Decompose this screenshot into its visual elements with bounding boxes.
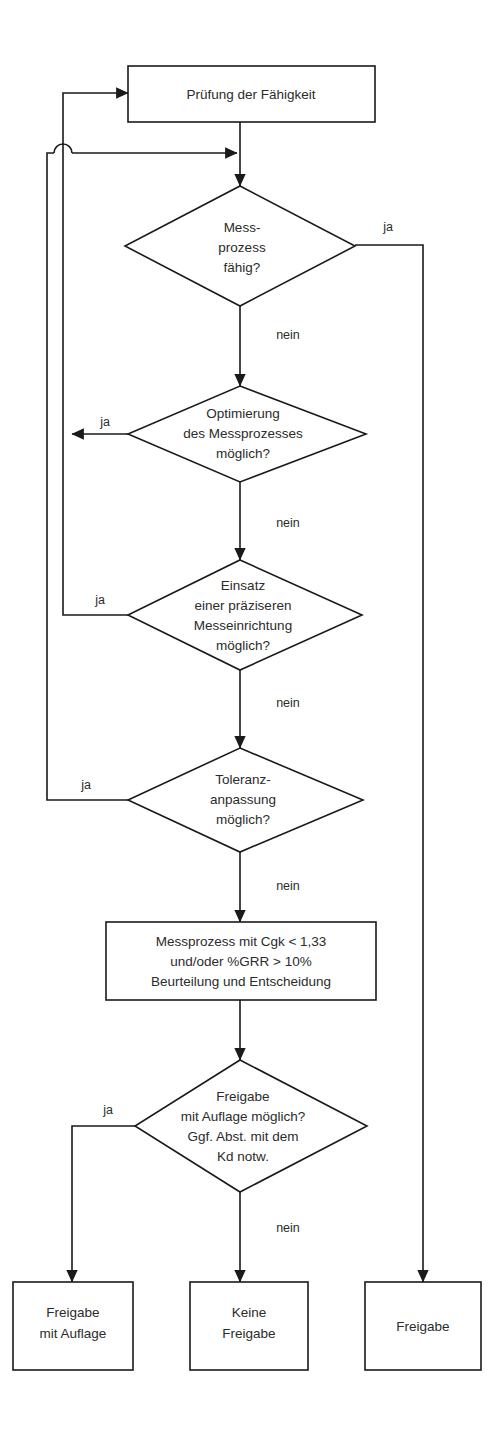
node-decision-conditional-release-line3: Ggf. Abst. mit dem [187,1129,298,1144]
node-decision-conditional-release[interactable]: Freigabe mit Auflage möglich? Ggf. Abst.… [135,1060,367,1192]
node-decision-precise-device[interactable]: Einsatz einer präziseren Messeinrichtung… [128,560,362,670]
node-terminal-release-conditional-line2: mit Auflage [40,1326,107,1341]
node-decision-conditional-release-line1: Freigabe [216,1089,269,1104]
node-decision-tolerance-line3: möglich? [216,812,270,827]
edge-label-precise-yes: ja [94,593,105,607]
node-terminal-no-release[interactable]: Keine Freigabe [190,1282,308,1370]
node-terminal-release-line1: Freigabe [396,1319,449,1334]
edge-tolerance-yes-seg1 [47,153,128,800]
node-terminal-release-conditional[interactable]: Freigabe mit Auflage [13,1282,133,1370]
node-process-evaluation-line2: und/oder %GRR > 10% [170,954,311,969]
node-decision-capable-line1: Mess- [224,220,261,235]
edge-precise-yes [63,93,128,615]
edge-label-conditional-yes: ja [102,1103,113,1117]
node-decision-capable[interactable]: Mess- prozess fähig? [125,186,355,306]
node-decision-capable-line2: prozess [218,240,266,255]
node-decision-tolerance-line2: anpassung [210,792,276,807]
node-terminal-no-release-line2: Freigabe [222,1326,275,1341]
edge-label-capable-yes: ja [382,220,393,234]
flowchart-diagram: Prüfung der Fähigkeit Mess- prozess fähi… [0,0,504,1436]
edge-label-conditional-no: nein [276,1221,300,1235]
node-start-process[interactable]: Prüfung der Fähigkeit [128,66,375,122]
node-decision-optimize[interactable]: Optimierung des Messprozesses möglich? [128,386,366,482]
node-decision-capable-line3: fähig? [224,260,261,275]
node-decision-conditional-release-line4: Kd notw. [217,1149,269,1164]
edge-label-tolerance-yes: ja [80,778,91,792]
edge-label-capable-no: nein [276,328,300,342]
node-decision-optimize-line3: möglich? [216,446,270,461]
node-decision-precise-device-line3: Messeinrichtung [194,618,292,633]
edge-label-precise-no: nein [276,696,300,710]
node-decision-optimize-line1: Optimierung [206,406,280,421]
node-decision-tolerance[interactable]: Toleranz- anpassung möglich? [128,748,363,852]
node-terminal-release-conditional-line1: Freigabe [46,1305,99,1320]
node-start-process-label: Prüfung der Fähigkeit [186,87,315,102]
node-decision-precise-device-line2: einer präziseren [195,598,292,613]
node-decision-precise-device-shape [128,560,362,670]
edge-conditional-yes [72,1126,135,1282]
node-decision-tolerance-line1: Toleranz- [215,772,271,787]
node-terminal-release[interactable]: Freigabe [365,1282,481,1370]
node-terminal-no-release-line1: Keine [232,1305,267,1320]
node-process-evaluation[interactable]: Messprozess mit Cgk < 1,33 und/oder %GRR… [106,922,376,1000]
node-decision-precise-device-line4: möglich? [216,638,270,653]
node-decision-conditional-release-shape [135,1060,367,1192]
flowchart-canvas: Prüfung der Fähigkeit Mess- prozess fähi… [0,0,504,1436]
node-process-evaluation-line1: Messprozess mit Cgk < 1,33 [156,934,327,949]
edge-label-optimize-no: nein [276,516,300,530]
node-decision-optimize-line2: des Messprozesses [183,426,303,441]
edge-label-tolerance-no: nein [276,879,300,893]
node-decision-precise-device-line1: Einsatz [221,578,266,593]
edge-label-optimize-yes: ja [99,415,110,429]
node-decision-conditional-release-line2: mit Auflage möglich? [181,1109,306,1124]
node-process-evaluation-line3: Beurteilung und Entscheidung [151,974,331,989]
